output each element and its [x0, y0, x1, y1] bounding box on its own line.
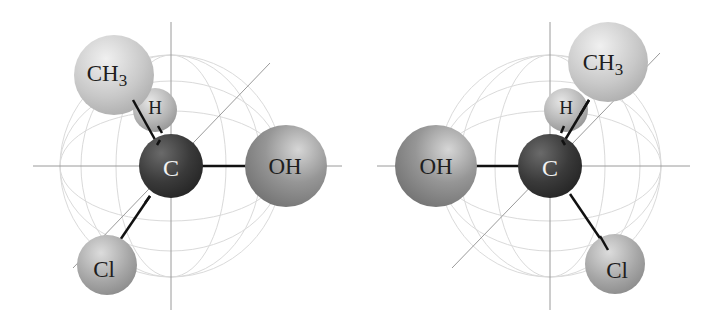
svg-text:OH: OH [419, 154, 452, 179]
left-atom-carbon: C [139, 134, 203, 203]
svg-text:C: C [542, 155, 558, 181]
left-atom-oh: OH [245, 125, 327, 207]
svg-text:Cl: Cl [93, 257, 115, 282]
left-atom-cl: Cl [77, 235, 137, 295]
svg-text:OH: OH [268, 154, 301, 179]
right-atom-h: H [544, 88, 588, 132]
svg-text:H: H [559, 97, 573, 118]
enantiomer-diagram: H CH3 OH Cl C [0, 0, 721, 322]
svg-text:C: C [163, 155, 179, 181]
left-atom-ch3: CH3 [74, 35, 154, 115]
right-atom-cl: Cl [585, 234, 645, 294]
svg-text:H: H [148, 97, 162, 118]
right-atom-ch3: CH3 [568, 22, 648, 102]
left-molecule: H CH3 OH Cl C [33, 22, 342, 310]
right-molecule: H CH3 OH Cl C [377, 22, 690, 310]
right-atom-carbon: C [518, 134, 582, 198]
right-atom-oh: OH [395, 125, 477, 207]
svg-text:Cl: Cl [606, 258, 628, 283]
